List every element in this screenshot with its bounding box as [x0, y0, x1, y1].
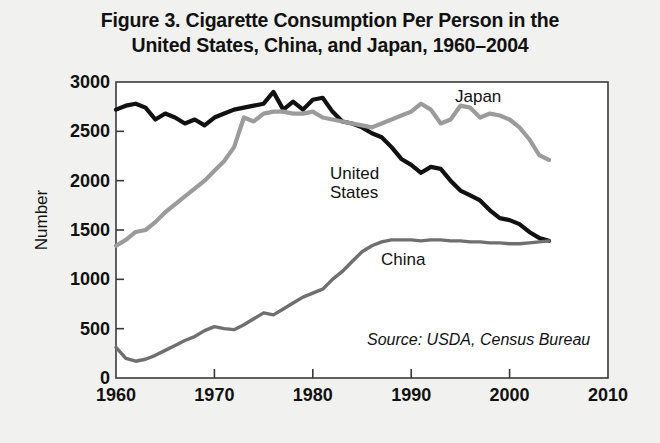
figure-container: Figure 3. Cigarette Consumption Per Pers…: [0, 0, 660, 443]
figure-title-line-2: United States, China, and Japan, 1960–20…: [20, 33, 640, 58]
source-note: Source: USDA, Census Bureau: [367, 331, 590, 349]
series-label-japan: Japan: [455, 87, 501, 106]
series-label-united-states: United States: [330, 164, 379, 202]
line-chart-canvas: [0, 60, 660, 443]
plot-wrapper: Number 050010001500200025003000 19601970…: [0, 60, 660, 443]
figure-title: Figure 3. Cigarette Consumption Per Pers…: [20, 8, 640, 58]
series-label-china: China: [381, 250, 425, 269]
figure-title-line-1: Figure 3. Cigarette Consumption Per Pers…: [20, 8, 640, 33]
